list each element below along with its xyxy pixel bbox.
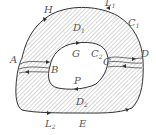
label-P: P — [73, 75, 81, 86]
label-C: C — [103, 56, 111, 67]
label-L1: L1 — [104, 0, 115, 9]
label-G: G — [72, 48, 80, 59]
label-H: H — [43, 4, 53, 15]
label-D: D — [140, 48, 149, 59]
label-C1: C1 — [128, 17, 139, 29]
label-A: A — [9, 54, 17, 65]
diagram: H L1 C1 D A B D1 G C2 C P D2 L2 E — [0, 0, 156, 135]
region-diagram: H L1 C1 D A B D1 G C2 C P D2 L2 E — [0, 0, 156, 135]
label-B: B — [50, 64, 58, 75]
label-L2: L2 — [44, 118, 56, 130]
label-E: E — [78, 118, 87, 129]
